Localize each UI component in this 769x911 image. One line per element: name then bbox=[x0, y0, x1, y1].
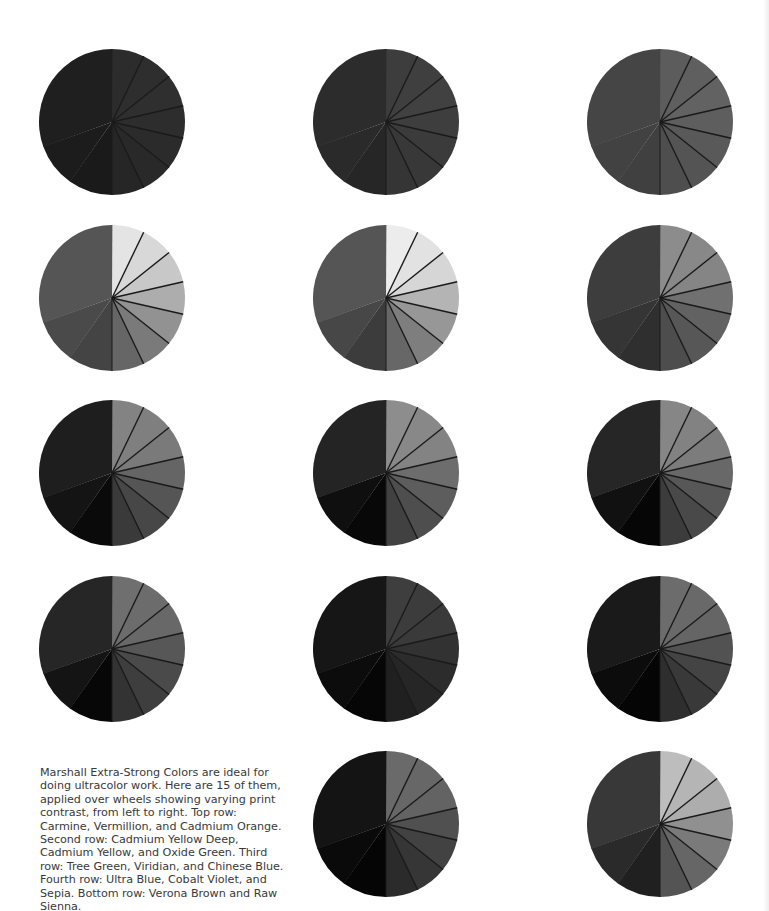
color-wheel-vermillion bbox=[312, 48, 460, 196]
color-wheel-verona-brown bbox=[312, 750, 460, 898]
color-wheel-ultra-blue bbox=[38, 575, 186, 723]
color-wheel-cadmium-yellow bbox=[312, 224, 460, 372]
color-wheel-sepia bbox=[586, 575, 734, 723]
color-wheel-carmine bbox=[38, 48, 186, 196]
color-wheel-oxide-green bbox=[586, 224, 734, 372]
color-wheel-cadmium-orange bbox=[586, 48, 734, 196]
color-wheel-chinese-blue bbox=[586, 399, 734, 547]
page-edge-shadow bbox=[763, 0, 769, 911]
color-wheel-raw-sienna bbox=[586, 750, 734, 898]
color-wheel-cobalt-violet bbox=[312, 575, 460, 723]
color-wheel-viridian bbox=[312, 399, 460, 547]
color-wheel-cadmium-yellow-deep bbox=[38, 224, 186, 372]
figure-caption: Marshall Extra-Strong Colors are ideal f… bbox=[40, 766, 286, 911]
color-wheel-tree-green bbox=[38, 399, 186, 547]
